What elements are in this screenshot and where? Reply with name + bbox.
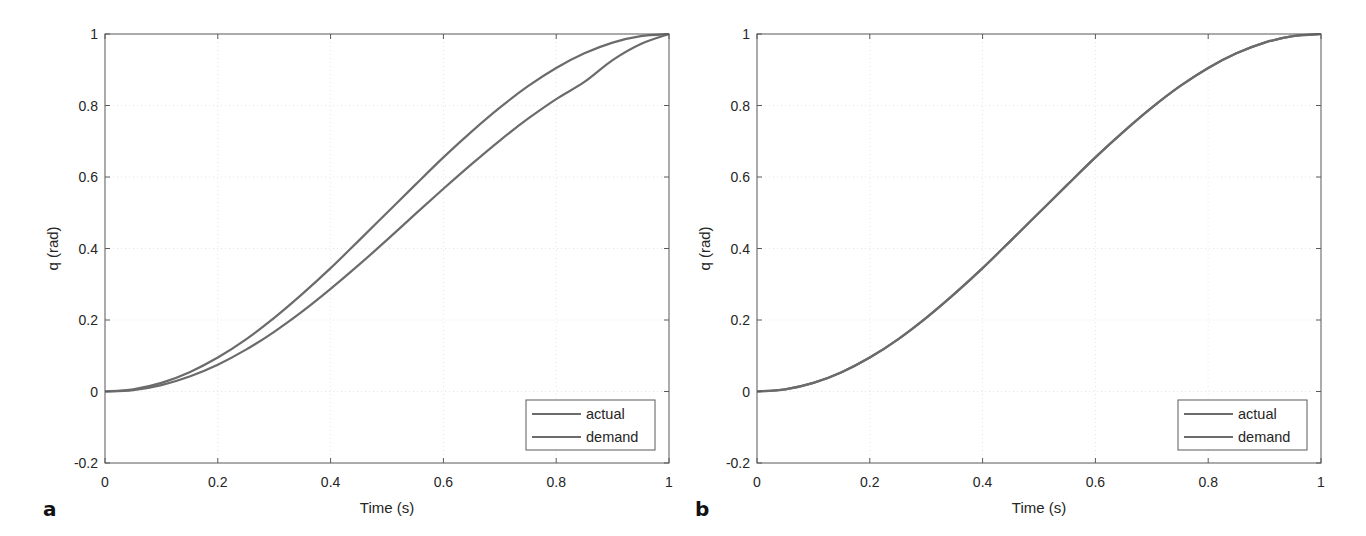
series-line-demand <box>757 34 1321 392</box>
y-tick-label: 0.8 <box>731 98 751 114</box>
y-tick-label: -0.2 <box>726 455 750 471</box>
x-tick-label: 1 <box>665 474 673 490</box>
y-axis-label: q (rad) <box>696 226 713 270</box>
x-tick-label: 0 <box>101 474 109 490</box>
plot-lines <box>757 34 1321 392</box>
x-tick-label: 0.4 <box>973 474 993 490</box>
gridlines <box>757 34 1321 463</box>
plot-panel-a: 00.20.40.60.81-0.200.20.40.60.81 Time (s… <box>43 26 673 521</box>
legend-item-demand: demand <box>1238 429 1290 445</box>
x-tick-label: 0.6 <box>434 474 454 490</box>
figure: 00.20.40.60.81-0.200.20.40.60.81 Time (s… <box>0 0 1366 536</box>
y-tick-label: 1 <box>742 26 750 42</box>
y-tick-label: 0 <box>90 384 98 400</box>
y-axis-label: q (rad) <box>44 226 61 270</box>
legend-item-demand: demand <box>586 429 638 445</box>
legend-item-actual: actual <box>1238 406 1277 422</box>
x-axis-label: Time (s) <box>1012 499 1066 516</box>
x-axis-label: Time (s) <box>360 499 414 516</box>
legend: actual demand <box>526 400 655 450</box>
y-tick-label: 0.6 <box>79 169 99 185</box>
legend: actual demand <box>1178 400 1307 450</box>
y-tick-label: 0 <box>742 384 750 400</box>
y-tick-label: 0.2 <box>79 312 99 328</box>
x-tick-label: 0.2 <box>860 474 880 490</box>
plot-lines <box>105 34 669 392</box>
x-tick-label: 0.6 <box>1086 474 1106 490</box>
x-tick-label: 0.8 <box>1198 474 1218 490</box>
x-tick-label: 0 <box>753 474 761 490</box>
y-tick-label: 0.4 <box>731 241 751 257</box>
y-tick-label: 0.2 <box>731 312 751 328</box>
gridlines <box>105 34 669 463</box>
x-tick-label: 0.2 <box>208 474 228 490</box>
series-line-demand <box>105 34 669 392</box>
y-tick-label: -0.2 <box>74 455 98 471</box>
y-tick-label: 0.4 <box>79 241 99 257</box>
x-tick-label: 0.4 <box>321 474 341 490</box>
x-tick-label: 1 <box>1317 474 1325 490</box>
y-tick-label: 0.6 <box>731 169 751 185</box>
legend-item-actual: actual <box>586 406 625 422</box>
panel-label: a <box>43 497 57 521</box>
y-tick-label: 1 <box>90 26 98 42</box>
panel-label: b <box>695 497 709 521</box>
x-tick-label: 0.8 <box>546 474 566 490</box>
plot-panel-b: 00.20.40.60.81-0.200.20.40.60.81 Time (s… <box>695 26 1325 521</box>
y-tick-label: 0.8 <box>79 98 99 114</box>
